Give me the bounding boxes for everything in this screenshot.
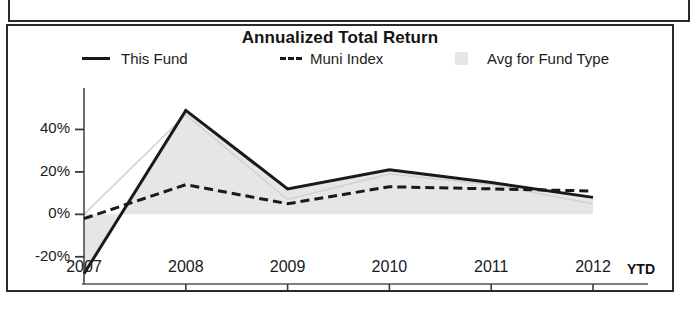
x-axis-tick-label: 2009 xyxy=(270,258,306,276)
annualized-total-return-chart-panel: Annualized Total Return This Fund Muni I… xyxy=(6,24,674,292)
legend-label-avg-for-fund-type: Avg for Fund Type xyxy=(487,50,609,67)
x-axis-ytd-label: YTD xyxy=(627,261,655,277)
gray-area-swatch-icon xyxy=(455,52,468,65)
legend-item-muni-index: Muni Index xyxy=(280,50,383,67)
chart-title: Annualized Total Return xyxy=(8,28,672,48)
legend-item-avg-for-fund-type: Avg for Fund Type xyxy=(455,50,609,67)
x-axis-tick-labels: 200720082009201020112012YTD xyxy=(8,258,672,284)
dashed-line-swatch-icon xyxy=(280,57,302,60)
x-axis-tick-label: 2010 xyxy=(372,258,408,276)
solid-line-swatch-icon xyxy=(82,57,110,60)
legend-label-muni-index: Muni Index xyxy=(310,50,383,67)
chart-legend: This Fund Muni Index Avg for Fund Type xyxy=(8,50,672,74)
legend-item-this-fund: This Fund xyxy=(82,50,188,67)
scan-artifact-top-box xyxy=(8,0,690,22)
x-axis-tick-label: 2012 xyxy=(575,258,611,276)
legend-label-this-fund: This Fund xyxy=(121,50,188,67)
x-axis-tick-label: 2007 xyxy=(66,258,102,276)
x-axis-tick-label: 2008 xyxy=(168,258,204,276)
avg-for-fund-type-area xyxy=(84,110,593,273)
x-axis-tick-label: 2011 xyxy=(474,258,508,276)
